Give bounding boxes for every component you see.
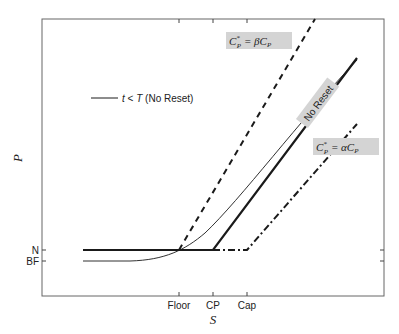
x-ticks bbox=[179, 19, 247, 296]
annotation-alpha: C*P = αCP bbox=[313, 138, 379, 156]
tick-label-n: N bbox=[32, 245, 39, 256]
tick-label-floor: Floor bbox=[168, 300, 191, 311]
plot-frame bbox=[42, 19, 384, 296]
legend-label: t < T (No Reset) bbox=[122, 93, 193, 104]
y-ticks bbox=[42, 250, 384, 261]
y-axis-label: P bbox=[10, 154, 25, 163]
line-beta bbox=[179, 19, 315, 250]
tick-label-cap: Cap bbox=[238, 300, 257, 311]
annotation-no-reset: No Reset bbox=[296, 77, 339, 128]
payoff-chart: Floor CP Cap N BF S P t < T (No Reset) C… bbox=[0, 0, 399, 334]
curve-t-lt-T bbox=[83, 60, 357, 261]
annotation-beta: C*P = βCP bbox=[226, 32, 292, 50]
x-axis-label: S bbox=[210, 312, 217, 327]
tick-label-bf: BF bbox=[26, 256, 39, 267]
tick-label-cp: CP bbox=[206, 300, 220, 311]
legend: t < T (No Reset) bbox=[91, 93, 193, 104]
